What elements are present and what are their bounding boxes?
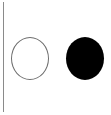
circle-filled-icon[interactable] (66, 37, 104, 80)
circle-outline-icon[interactable] (11, 37, 49, 80)
left-vertical-divider (3, 2, 4, 112)
figure-canvas (0, 0, 111, 115)
circle-outline-label (11, 37, 12, 38)
circle-filled-label (65, 36, 66, 37)
